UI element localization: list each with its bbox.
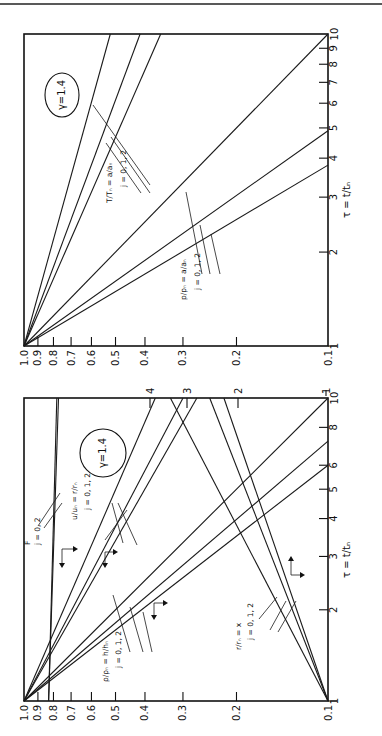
series-line — [24, 398, 328, 701]
tau-tick-label: 5 — [329, 486, 340, 492]
bottom-u-label-group: u/uₙ = r/rₙ j = 0, 1, 2 — [70, 473, 137, 545]
leader-r2 — [278, 601, 296, 632]
value-tick-label: 0.7 — [66, 350, 77, 366]
value-tick-label: 0.4 — [139, 705, 150, 721]
F-label: F — [23, 541, 32, 545]
tau-tick-label: 10 — [329, 28, 340, 41]
leader-u0 — [105, 510, 127, 540]
top-curves — [24, 34, 328, 346]
top-T-label-group: T/Tₙ = a/aₙ j = 0, 1, 2 — [93, 105, 150, 204]
figure: 1.00.90.80.70.60.50.40.30.20.1 123456789… — [0, 0, 382, 736]
top-p-label: p/pₙ = a/aₙ — [179, 259, 188, 300]
series-line — [24, 441, 328, 701]
series-line — [224, 398, 328, 701]
rho-arrow — [151, 600, 168, 620]
tau-tick-label: 3 — [329, 194, 340, 200]
tau-tick-label: 4 — [329, 515, 340, 521]
bottom-F-label-group: F j = 0, 2 — [23, 493, 62, 546]
value-tick-label: 0.3 — [177, 350, 188, 366]
series-line — [24, 165, 328, 346]
top-value-axis: 1.00.90.80.70.60.50.40.30.20.1 — [19, 337, 334, 366]
tau-tick-label: 8 — [329, 61, 340, 67]
top-T-j-label: j = 0, 1, 2 — [119, 150, 128, 188]
value-tick-label: 0.5 — [110, 350, 121, 366]
value-tick-label: 1.0 — [19, 705, 30, 721]
top-p-label-group: p/pₙ = a/aₙ j = 0, 1, 2 — [179, 192, 220, 300]
value-tick-label: 0.1 — [323, 705, 334, 721]
value-tick-label: 0.9 — [32, 350, 43, 366]
value-tick-label: 0.5 — [110, 705, 121, 721]
leader-u2 — [118, 503, 137, 545]
value-tick-label: 1.0 — [19, 350, 30, 366]
leader-T2 — [111, 137, 150, 193]
leader-r0 — [259, 597, 277, 619]
series-line — [24, 34, 110, 346]
gamma-label: γ=1.4 — [97, 438, 108, 468]
value-tick-label: 0.8 — [48, 350, 59, 366]
series-line — [170, 398, 328, 701]
bottom-tau-axis-label: τ = t/tₙ — [341, 542, 352, 578]
bottom-panel: 1.00.90.80.70.60.50.40.30.20.1 123456810… — [19, 388, 353, 721]
tau-tick-label: 6 — [329, 100, 340, 106]
r-label: r/rₙ = x — [234, 622, 243, 650]
series-line — [24, 34, 161, 346]
top-gamma-annotation: γ=1.4 — [45, 73, 79, 117]
tau-tick-label: 6 — [329, 462, 340, 468]
series-line — [210, 398, 328, 701]
leader-rho2 — [143, 612, 152, 652]
value-tick-label: 0.4 — [139, 350, 150, 366]
series-line — [24, 131, 328, 346]
value-tick-label: 0.9 — [32, 705, 43, 721]
top-T-label: T/Tₙ = a/aₙ — [105, 163, 114, 204]
u-arrow — [102, 549, 118, 568]
bottom-tau-axis: 123456810 — [319, 392, 340, 705]
tau-tick-label: 3 — [329, 553, 340, 559]
tau-tick-label: 5 — [329, 125, 340, 131]
value-tick-label: 0.2 — [231, 350, 242, 366]
F-arrow — [59, 546, 78, 568]
tau-tick-label: 7 — [329, 79, 340, 85]
value-tick-label: 0.6 — [86, 705, 97, 721]
tau-tick-label: 2 — [329, 607, 340, 613]
value-tick-label: 0.1 — [323, 350, 334, 366]
value-tick-label: 0.2 — [231, 705, 242, 721]
F-j-label: j = 0, 2 — [33, 517, 42, 546]
top-tau-axis-label: τ = t/tₙ — [341, 182, 352, 218]
bottom-gamma-annotation: γ=1.4 — [80, 429, 126, 477]
gamma-label: γ=1.4 — [56, 80, 67, 110]
series-line — [24, 34, 140, 346]
r-j-label: j = 0, 1, 2 — [246, 603, 255, 641]
rho-j-label: j = 0, 1, 2 — [114, 631, 123, 669]
tau-tick-label: 8 — [329, 424, 340, 430]
rho-label: ρ/ρₙ = h/hₙ — [101, 641, 110, 682]
value-tick-label: 0.8 — [48, 705, 59, 721]
leader-p2 — [211, 234, 220, 274]
bottom-curves — [24, 398, 328, 701]
bottom-r-label-group: r/rₙ = x j = 0, 1, 2 — [234, 597, 296, 650]
r-arrow — [288, 556, 305, 578]
value-tick-label: 0.6 — [86, 350, 97, 366]
top-edge-tick-label: 4 — [145, 388, 156, 394]
u-label: u/uₙ = r/rₙ — [70, 482, 79, 520]
value-tick-label: 0.7 — [66, 705, 77, 721]
top-edge-tick-label: 1 — [321, 388, 332, 394]
series-line — [24, 398, 155, 701]
tau-tick-label: 9 — [329, 45, 340, 51]
series-line — [24, 34, 328, 346]
top-p-j-label: j = 0, 1, 2 — [193, 253, 202, 291]
top-tau-axis: 12345678910 — [319, 28, 340, 350]
series-line — [24, 398, 197, 701]
u-j-label: j = 0, 1, 2 — [83, 473, 92, 511]
top-edge-tick-label: 2 — [233, 388, 244, 394]
tau-tick-label: 2 — [329, 249, 340, 255]
top-edge-tick-label: 3 — [182, 388, 193, 394]
bottom-value-axis: 1.00.90.80.70.60.50.40.30.20.1 — [19, 692, 334, 721]
tau-tick-label: 4 — [329, 155, 340, 161]
top-panel: 1.00.90.80.70.60.50.40.30.20.1 123456789… — [19, 28, 353, 366]
value-tick-label: 0.3 — [177, 705, 188, 721]
